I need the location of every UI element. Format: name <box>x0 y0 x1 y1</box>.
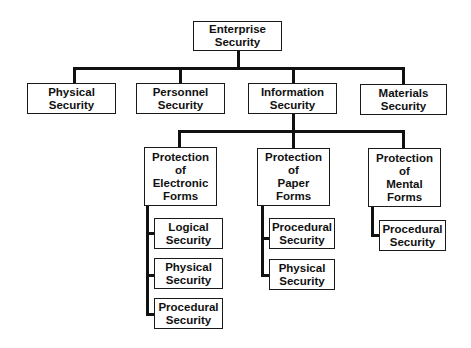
node-label: Physical Security <box>279 262 326 288</box>
node-protection-paper-forms: Protection of Paper Forms <box>257 148 330 206</box>
node-protection-electronic-forms: Protection of Electronic Forms <box>144 147 217 206</box>
node-label: Physical Security <box>48 86 95 112</box>
connector-paper-trunk <box>261 206 264 277</box>
node-information-security: Information Security <box>248 83 337 114</box>
connector-to-information <box>292 67 295 84</box>
node-label: Protection of Paper Forms <box>265 151 322 203</box>
node-label: Protection of Mental Forms <box>376 152 433 204</box>
node-electronic-physical-security: Physical Security <box>154 258 223 289</box>
connector-to-materials <box>402 67 405 84</box>
node-mental-procedural-security: Procedural Security <box>379 220 446 251</box>
connector-to-personnel <box>179 67 182 84</box>
node-label: Materials Security <box>379 87 429 113</box>
node-paper-procedural-security: Procedural Security <box>269 218 335 249</box>
node-label: Procedural Security <box>158 301 218 327</box>
connector-electronic-trunk <box>146 206 149 316</box>
node-paper-physical-security: Physical Security <box>269 259 335 290</box>
connector-to-paper-physical <box>261 274 269 277</box>
node-label: Procedural Security <box>382 223 442 249</box>
connector-to-mental <box>402 130 405 148</box>
connector-to-mental-procedural <box>371 234 379 237</box>
node-materials-security: Materials Security <box>360 84 447 115</box>
node-protection-mental-forms: Protection of Mental Forms <box>368 148 441 207</box>
node-label: Information Security <box>261 86 324 112</box>
node-label: Enterprise Security <box>209 23 266 49</box>
connector-to-paper-procedural <box>261 237 269 240</box>
node-label: Physical Security <box>165 261 212 287</box>
connector-to-paper <box>292 130 295 148</box>
connector-to-physical <box>73 67 76 84</box>
node-label: Logical Security <box>166 221 211 247</box>
node-label: Personnel Security <box>153 86 209 112</box>
security-hierarchy-diagram: Enterprise Security Physical Security Pe… <box>0 0 471 348</box>
node-electronic-procedural-security: Procedural Security <box>154 298 223 329</box>
node-label: Protection of Electronic Forms <box>152 151 209 203</box>
node-label: Procedural Security <box>272 221 332 247</box>
node-enterprise-security: Enterprise Security <box>193 21 282 51</box>
connector-to-electronic-physical <box>146 274 154 277</box>
node-logical-security: Logical Security <box>154 218 223 249</box>
connector-to-electronic <box>178 130 181 148</box>
node-personnel-security: Personnel Security <box>136 83 225 114</box>
connector-mental-trunk <box>371 207 374 237</box>
connector-to-electronic-procedural <box>146 313 154 316</box>
connector-level1-bus <box>73 67 405 70</box>
connector-to-logical <box>146 232 154 235</box>
node-physical-security: Physical Security <box>27 83 116 114</box>
